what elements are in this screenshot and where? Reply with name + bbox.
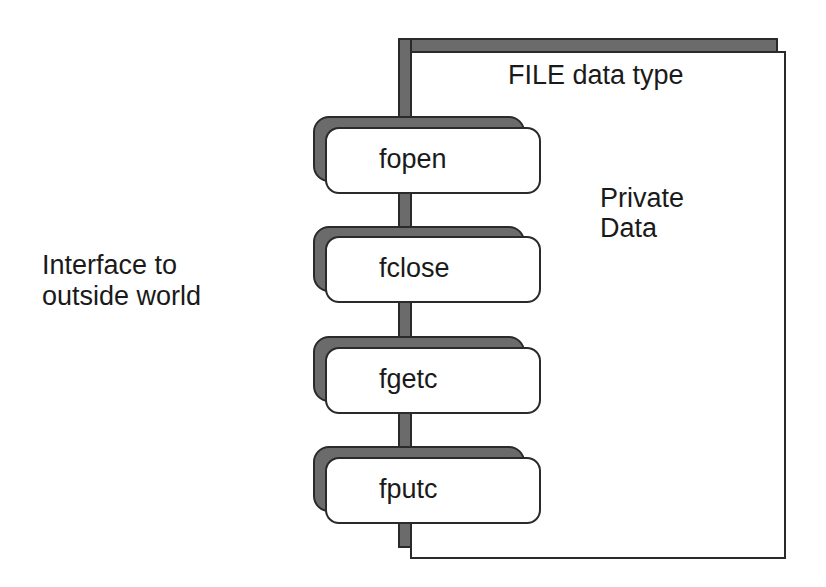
function-label: fclose — [327, 253, 450, 284]
private-data-line-1: Private — [600, 183, 684, 213]
interface-label: Interface to outside world — [42, 250, 201, 312]
private-data-line-2: Data — [600, 213, 684, 243]
function-box-fopen: fopen — [325, 127, 541, 194]
function-label: fputc — [327, 474, 438, 505]
interface-label-line-2: outside world — [42, 281, 201, 312]
function-box-fputc: fputc — [325, 457, 541, 524]
function-label: fgetc — [327, 364, 438, 395]
function-box-fgetc: fgetc — [325, 347, 541, 414]
function-label: fopen — [327, 144, 447, 175]
private-data-label: Private Data — [600, 183, 684, 243]
function-box-fclose: fclose — [325, 236, 541, 303]
interface-label-line-1: Interface to — [42, 250, 201, 281]
panel-title: FILE data type — [508, 60, 684, 91]
